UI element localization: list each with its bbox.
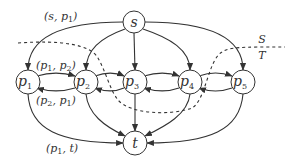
node-label: t <box>132 135 138 151</box>
edge-p3-p4 <box>144 73 179 76</box>
edge-label-s-p1: (s, p1) <box>44 10 77 24</box>
edge-s-p2 <box>86 29 125 70</box>
edge-p2-p3 <box>95 73 124 76</box>
node-p5: p5 <box>231 70 255 94</box>
edge-p2-t <box>86 94 125 136</box>
cut-label-source: S <box>258 33 266 46</box>
edge-p4-p5 <box>199 73 232 76</box>
edge-p1-p2 <box>37 73 75 76</box>
edge-p5-p4 <box>199 88 232 91</box>
edge-s-p3 <box>134 33 135 70</box>
edge-label-p1-t: (p1, t) <box>46 142 78 156</box>
node-s: s <box>123 11 145 33</box>
node-p3: p3 <box>123 70 147 94</box>
edge-s-p4 <box>143 29 190 70</box>
edge-p4-t <box>145 94 190 136</box>
edge-p5-t <box>147 94 243 143</box>
network-diagram: s p1 p2 p3 p4 p5 t (s, p1) (p1, p2) (p2,… <box>0 0 297 162</box>
edge-p3-p2 <box>95 88 124 91</box>
diagram-canvas: s p1 p2 p3 p4 p5 t (s, p1) (p1, p2) (p2,… <box>0 0 297 162</box>
edge-s-p5 <box>145 22 243 70</box>
node-p4: p4 <box>178 70 202 94</box>
node-t: t <box>123 131 147 155</box>
node-label: s <box>130 14 137 30</box>
node-p2: p2 <box>74 70 98 94</box>
edge-label-p2-p1: (p2, p1) <box>36 94 76 108</box>
cut-label-sink: T <box>258 49 267 62</box>
edge-label-p1-p2: (p1, p2) <box>36 59 76 73</box>
edge-p2-p1 <box>37 88 75 91</box>
edge-p4-p3 <box>144 88 179 91</box>
node-p1: p1 <box>16 70 40 94</box>
